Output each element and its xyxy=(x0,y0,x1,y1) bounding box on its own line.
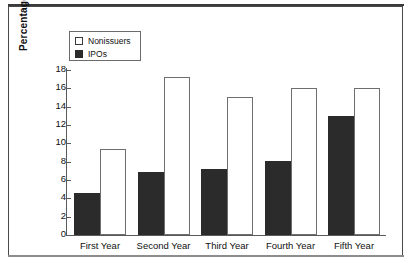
legend-item-ipos: IPOs xyxy=(75,48,136,60)
y-axis-tick-label: 6 xyxy=(50,173,66,184)
legend-label-nonissuers: Nonissuers xyxy=(88,36,131,46)
y-axis-tick-label: 14 xyxy=(50,100,66,111)
x-axis-label-fifth-year: Fifth Year xyxy=(324,240,384,251)
chart-legend: Nonissuers IPOs xyxy=(69,31,141,61)
y-axis-tick-label: 0 xyxy=(50,228,66,239)
x-axis-label-fourth-year: Fourth Year xyxy=(261,240,321,251)
y-axis-tick-mark xyxy=(66,235,71,236)
y-axis-tick-label: 8 xyxy=(50,155,66,166)
y-axis-title: Percentage Annual Return xyxy=(16,0,32,72)
legend-label-ipos: IPOs xyxy=(88,49,107,59)
bar-nonissuers-fifth-year xyxy=(354,88,380,235)
y-axis-tick-mark xyxy=(66,162,71,163)
bar-nonissuers-fourth-year xyxy=(291,88,317,235)
figure-bottom-rule xyxy=(8,255,404,257)
y-axis-tick-mark xyxy=(66,125,71,126)
filled-square-icon xyxy=(75,50,83,58)
chart-figure: Percentage Annual Return 024681012141618… xyxy=(0,0,411,263)
y-axis-tick-mark xyxy=(66,198,71,199)
y-axis-tick-label: 4 xyxy=(50,191,66,202)
x-axis-label-third-year: Third Year xyxy=(197,240,257,251)
hollow-square-icon xyxy=(75,37,83,45)
bar-nonissuers-second-year xyxy=(164,77,190,235)
x-axis-label-first-year: First Year xyxy=(70,240,130,251)
y-axis-line xyxy=(66,68,67,236)
y-axis-tick-mark xyxy=(66,143,71,144)
y-axis-tick-label: 2 xyxy=(50,210,66,221)
y-axis-tick-mark xyxy=(66,107,71,108)
bar-ipos-first-year xyxy=(74,193,100,235)
x-axis-label-second-year: Second Year xyxy=(134,240,194,251)
y-axis-tick-mark xyxy=(66,70,71,71)
y-axis-tick-label: 16 xyxy=(50,81,66,92)
bar-nonissuers-first-year xyxy=(100,149,126,235)
bar-nonissuers-third-year xyxy=(227,97,253,235)
bar-ipos-fourth-year xyxy=(265,161,291,235)
x-axis-line xyxy=(66,235,386,236)
y-axis-tick-label: 18 xyxy=(50,63,66,74)
y-axis-tick-mark xyxy=(66,180,71,181)
y-axis-tick-mark xyxy=(66,88,71,89)
bar-ipos-third-year xyxy=(201,169,227,235)
bar-ipos-fifth-year xyxy=(328,116,354,235)
y-axis-tick-label: 10 xyxy=(50,136,66,147)
bar-ipos-second-year xyxy=(138,172,164,235)
y-axis-tick-label: 12 xyxy=(50,118,66,129)
legend-item-nonissuers: Nonissuers xyxy=(75,35,136,47)
y-axis-tick-mark xyxy=(66,217,71,218)
